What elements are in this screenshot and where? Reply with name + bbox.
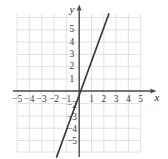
x-tick-label: −5 [12,94,22,104]
y-tick-label: −2 [67,100,77,110]
x-tick-label: 4 [126,94,131,104]
x-tick-labels-negative: −5 −4 −3 −2 −1 [12,94,72,104]
x-tick-label: −2 [49,94,59,104]
x-axis [13,88,157,93]
y-tick-label: 2 [69,61,74,71]
y-tick-label: −5 [67,136,77,146]
coordinate-plane-figure: −5 −4 −3 −2 −1 1 2 3 4 5 5 4 3 2 1 −2 −3… [0,0,168,159]
graph-screenshot: −5 −4 −3 −2 −1 1 2 3 4 5 5 4 3 2 1 −2 −3… [0,0,168,159]
y-axis [77,5,82,158]
x-tick-label: −3 [37,94,47,104]
plotted-line [57,14,109,157]
x-tick-label: 1 [89,94,94,104]
x-tick-labels-positive: 1 2 3 4 5 [89,94,143,104]
x-axis-label: x [154,91,160,103]
y-axis-label: y [69,3,75,15]
y-tick-label: 1 [69,74,74,84]
x-tick-label: −4 [24,94,34,104]
y-tick-labels-positive: 5 4 3 2 1 [69,24,74,83]
y-tick-label: 3 [69,49,74,59]
y-tick-label: 5 [69,24,74,34]
x-tick-label: 3 [114,94,119,104]
y-tick-label: −4 [67,124,77,134]
y-tick-label: 4 [69,37,74,47]
x-tick-label: 2 [101,94,106,104]
x-tick-label: 5 [138,94,143,104]
y-tick-label: −3 [67,112,77,122]
